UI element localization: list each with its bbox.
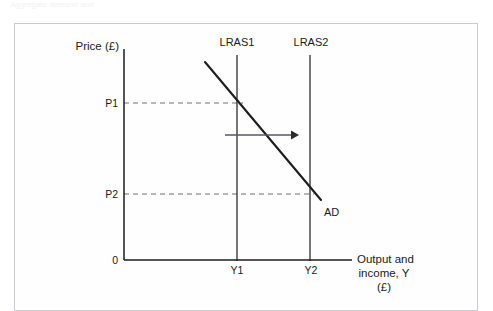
y-tick-label-p2: P2 [105,188,118,200]
x-axis-title-line-1: Output and [357,253,414,265]
x-axis-title-line-2: income, Y [359,267,410,279]
origin-label: 0 [112,254,118,266]
ad-curve-line [205,62,321,200]
y-tick-label-p1: P1 [105,97,118,109]
x-axis-title-line-3: (£) [377,281,391,293]
lras2-label: LRAS2 [294,36,329,48]
lras1-label: LRAS1 [220,36,255,48]
ad-curve-label: AD [324,206,339,218]
x-tick-label-y1: Y1 [231,264,244,276]
x-tick-label-y2: Y2 [305,264,318,276]
y-axis-title: Price (£) [76,40,120,52]
lras-shift-arrow-head [291,131,299,140]
